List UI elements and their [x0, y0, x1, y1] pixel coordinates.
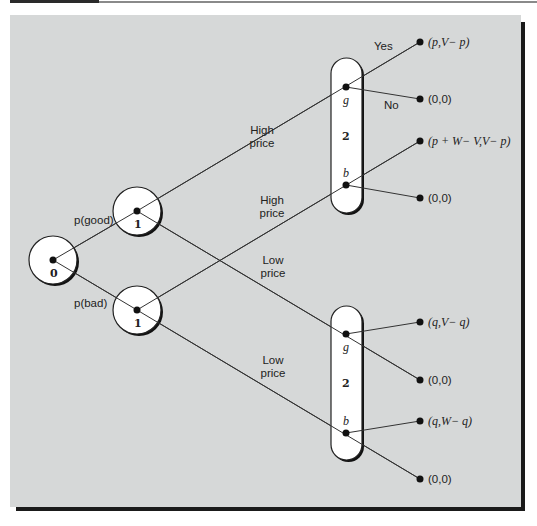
edges-overlay: [53, 42, 420, 479]
b-label-high: b: [343, 166, 349, 180]
node-1-good-label: 1: [134, 218, 142, 231]
yes-label: Yes: [374, 40, 393, 52]
dot-g-high: [343, 84, 350, 91]
dot-node-1-good: [134, 208, 141, 215]
dot-g-low: [343, 331, 350, 338]
high-price-label-2a: High: [260, 194, 284, 206]
payoff-2: (0,0): [428, 93, 452, 105]
p-good-label: p(good): [74, 214, 114, 226]
dot-node-0: [50, 257, 57, 264]
g-label-high: g: [343, 93, 349, 107]
node-1-bad-label: 1: [134, 317, 142, 330]
payoff-3: (p + W− V,V− p): [428, 134, 510, 148]
payoff-5: (q,V− q): [428, 315, 469, 329]
p-bad-label: p(bad): [74, 297, 107, 309]
g-label-low: g: [343, 340, 349, 354]
no-label: No: [384, 99, 399, 111]
dot-node-1-bad: [134, 307, 141, 314]
b-label-low: b: [343, 414, 349, 428]
payoff-6: (0,0): [428, 374, 452, 386]
payoffs: (p,V− p) (0,0) (p + W− V,V− p) (0,0) (q,…: [428, 35, 510, 485]
payoff-4: (0,0): [428, 192, 452, 204]
dot-b-low: [343, 430, 350, 437]
info-set-high-label: 2: [342, 130, 350, 143]
payoff-7: (q,W− q): [428, 414, 472, 428]
node-0-label: 0: [50, 267, 58, 280]
info-set-low-label: 2: [342, 377, 350, 390]
decision-points: [50, 84, 350, 437]
payoff-8: (0,0): [428, 473, 452, 485]
high-price-label-2b: price: [260, 207, 285, 219]
low-price-label-1a: Low: [262, 254, 284, 266]
dot-b-high: [343, 182, 350, 189]
low-price-label-2b: price: [261, 367, 286, 379]
low-price-label-1b: price: [261, 267, 286, 279]
payoff-1: (p,V− p): [428, 35, 469, 49]
high-price-label-1a: High: [250, 124, 274, 136]
low-price-label-2a: Low: [262, 354, 284, 366]
edges: [53, 42, 420, 479]
high-price-label-1b: price: [250, 137, 275, 149]
terminal-points: [417, 39, 424, 483]
game-tree-diagram: 0 1 1 2 2 g b g b p(good) p(bad) High pr…: [0, 0, 537, 526]
